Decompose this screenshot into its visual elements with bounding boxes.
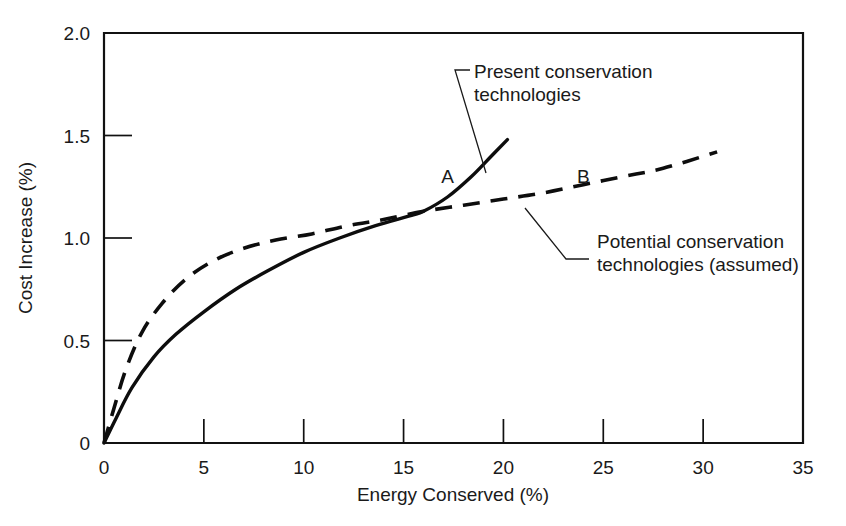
curve-point-label-a: A (441, 166, 454, 187)
x-tick-label: 30 (693, 457, 714, 478)
x-tick-label: 0 (99, 457, 110, 478)
annotation-potential-line2: technologies (assumed) (597, 254, 799, 275)
y-tick-label: 1.5 (64, 126, 90, 147)
annotation-present-line2: technologies (474, 84, 581, 105)
x-axis-title: Energy Conserved (%) (357, 484, 549, 505)
x-tick-label: 35 (792, 457, 813, 478)
annotation-potential-line1: Potential conservation (597, 231, 784, 252)
y-tick-label: 0 (79, 433, 90, 454)
cost-increase-vs-energy-conserved-chart: 00.51.01.52.0 05101520253035 AB Present … (0, 0, 846, 526)
curve-point-label-b: B (577, 166, 590, 187)
chart-container: 00.51.01.52.0 05101520253035 AB Present … (0, 0, 846, 526)
y-tick-label: 2.0 (64, 23, 90, 44)
annotation-present-line1: Present conservation (474, 61, 653, 82)
y-tick-label: 0.5 (64, 331, 90, 352)
x-tick-label: 20 (493, 457, 514, 478)
y-axis-title: Cost Increase (%) (15, 162, 36, 314)
y-tick-label: 1.0 (64, 228, 90, 249)
x-tick-label: 15 (393, 457, 414, 478)
x-tick-label: 25 (593, 457, 614, 478)
x-tick-label: 10 (293, 457, 314, 478)
x-tick-label: 5 (199, 457, 210, 478)
